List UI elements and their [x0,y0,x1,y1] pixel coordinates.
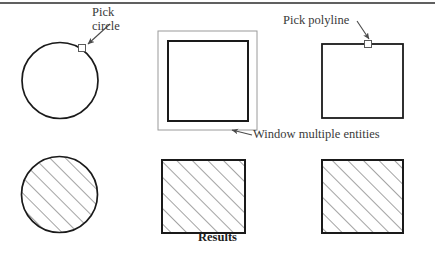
square-selected-right [322,160,403,233]
circle-selected [22,157,98,233]
pick-box-polyline [365,41,372,48]
circle-unselected [22,43,98,119]
leader-pick-polyline [357,21,369,39]
label-window-multiple-entities: Window multiple entities [253,128,380,142]
label-pick-circle: Pick circle [92,6,136,33]
leader-window-multiple [232,130,252,135]
square-unselected-windowed [168,41,248,121]
label-pick-circle-line2: circle [92,19,120,33]
pick-box-circle [79,45,86,52]
label-pick-polyline: Pick polyline [283,14,349,28]
square-unselected-picked [322,44,403,118]
label-pick-circle-line1: Pick [92,5,114,19]
square-selected-middle [162,160,245,233]
label-results: Results [0,231,435,245]
figure-selection-methods: Pick circle Pick polyline Window multipl… [0,0,435,255]
window-selection-rect [158,31,257,130]
